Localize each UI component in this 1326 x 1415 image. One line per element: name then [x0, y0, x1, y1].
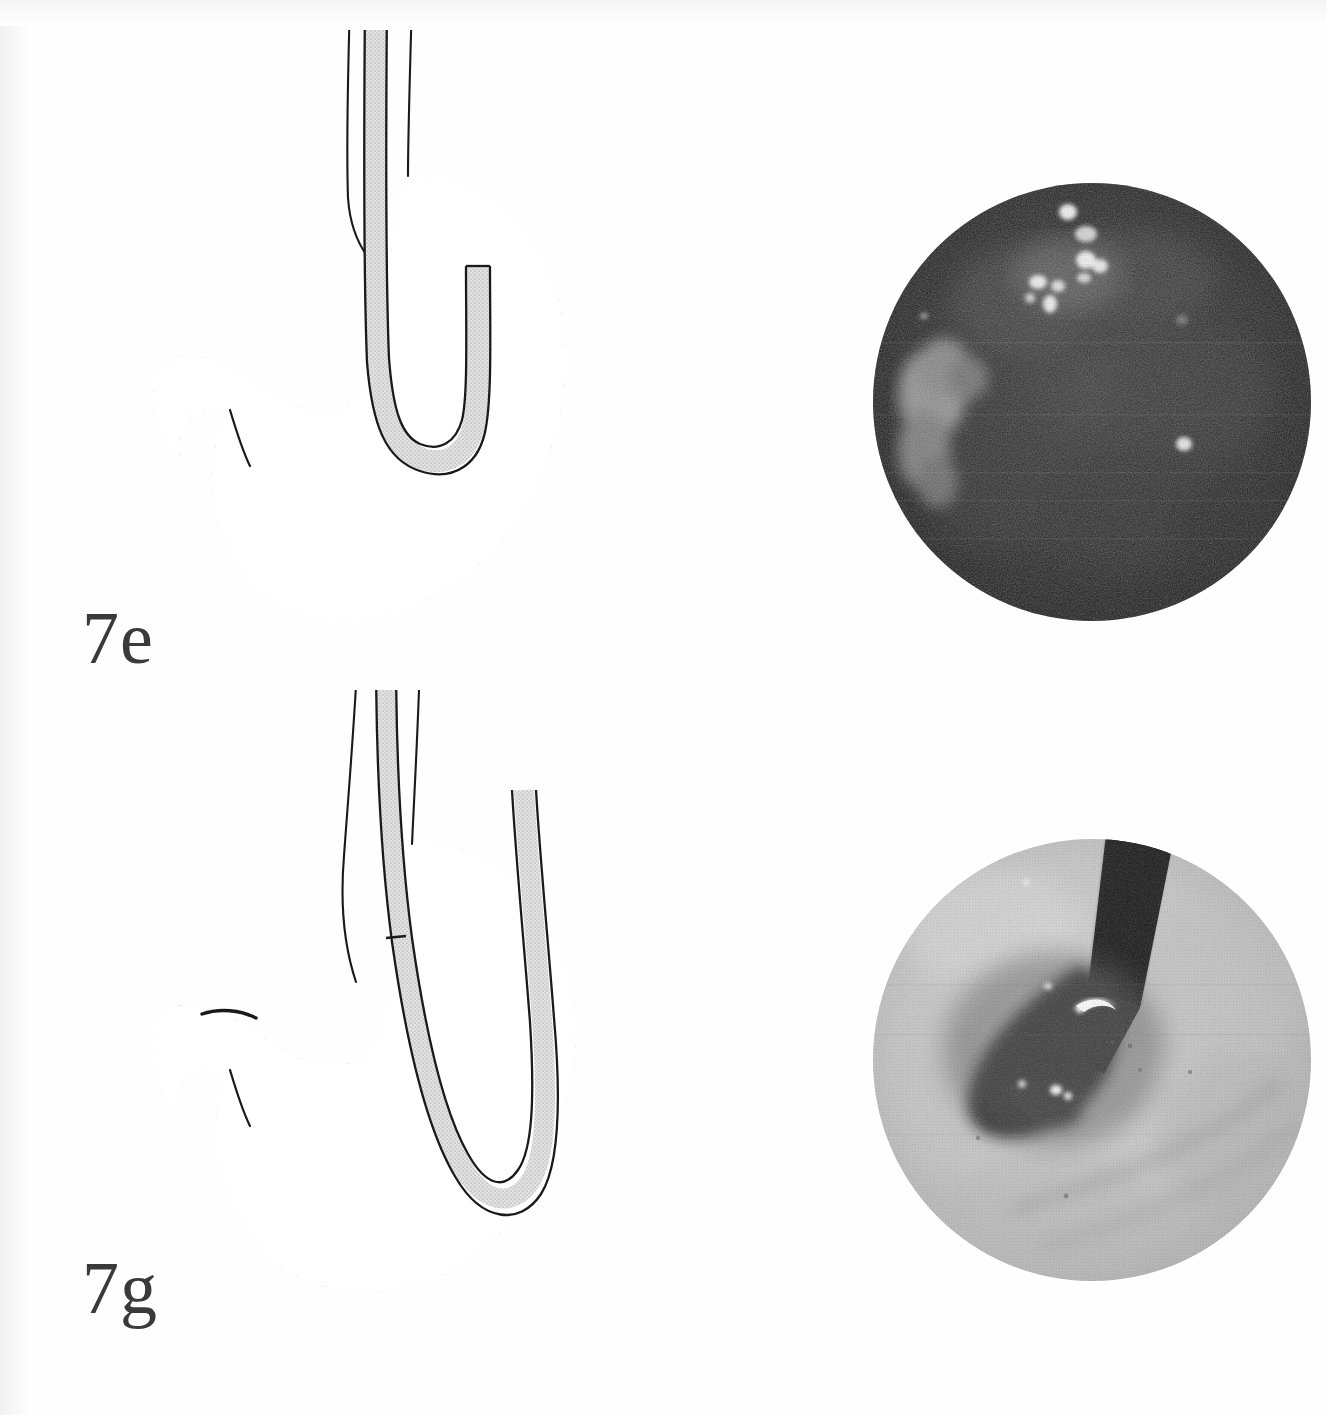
stomach-body-7e [90, 30, 710, 670]
endoscopic-photo-7g [872, 838, 1312, 1282]
stomach-endoscope-diagram-7e [90, 30, 710, 670]
endoscopic-photo-7e [872, 182, 1312, 622]
scan-edge-shading-left [0, 0, 34, 1415]
stomach-endoscope-diagram-7g [90, 690, 710, 1330]
scan-edge-shading-top [0, 0, 1326, 26]
